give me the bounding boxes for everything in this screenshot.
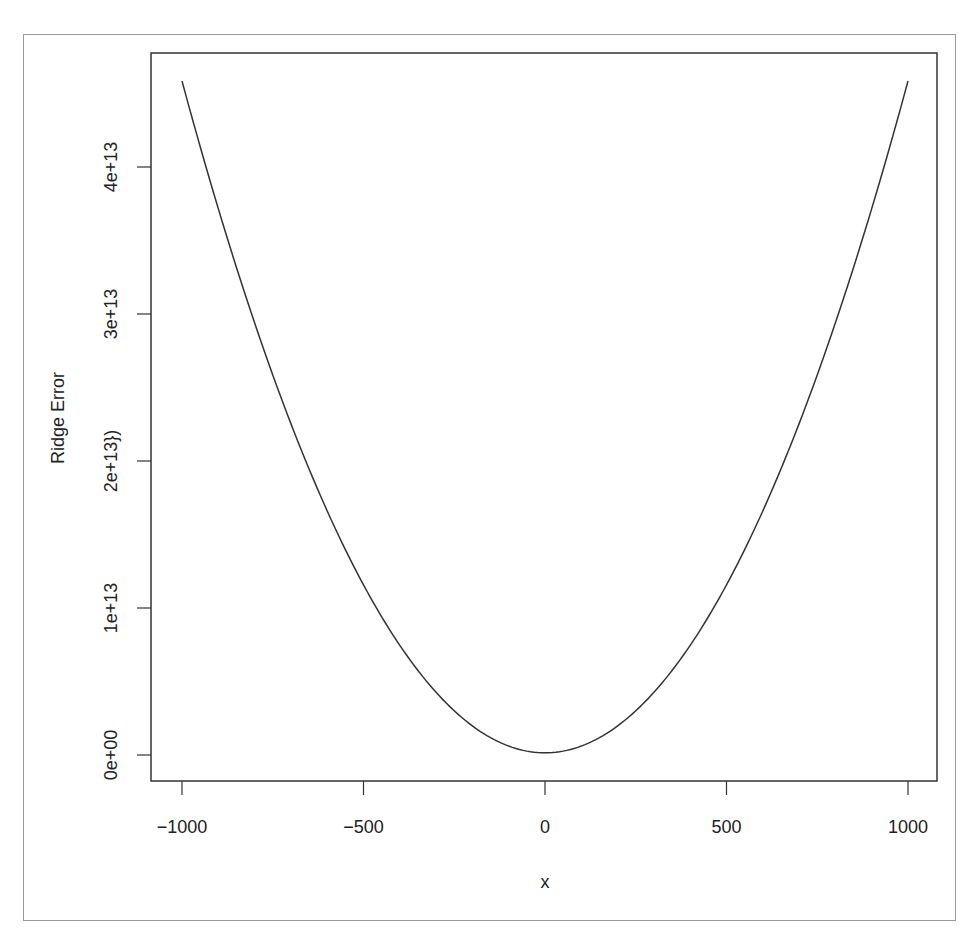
y-tick-label: 2e+13}) xyxy=(101,430,121,493)
x-tick-label: 0 xyxy=(540,817,550,837)
x-axis-label: x xyxy=(541,872,550,892)
y-tick-label: 3e+13 xyxy=(101,289,121,340)
outer-frame xyxy=(24,35,956,921)
y-tick-label: 4e+13 xyxy=(101,142,121,193)
x-tick-label: 500 xyxy=(711,817,741,837)
x-tick-label: −1000 xyxy=(157,817,208,837)
y-tick-label: 0e+00 xyxy=(101,730,121,781)
y-axis-label: Ridge Error xyxy=(48,372,68,464)
y-tick-label: 1e+13 xyxy=(101,583,121,634)
x-tick-label: 1000 xyxy=(888,817,928,837)
x-tick-label: −500 xyxy=(343,817,384,837)
chart-figure: −1000−50005001000 0e+001e+132e+13})3e+13… xyxy=(0,0,973,939)
